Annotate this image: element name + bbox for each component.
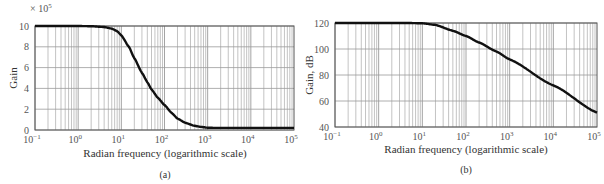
panel-b-y-ticks: 406080100120 [314, 18, 329, 133]
panel-a-caption: (a) [159, 169, 170, 181]
y-tick-label: 6 [24, 62, 29, 73]
panel-a-y-ticks: 0246810 [19, 21, 29, 136]
panel-a-multiplier: × 105 [30, 2, 52, 14]
panel-b-grid [335, 23, 597, 127]
x-tick-label: 10−1 [323, 130, 341, 142]
x-tick-label: 102 [456, 130, 470, 142]
x-tick-label: 105 [587, 130, 601, 142]
panel-a-y-axis-label: Gain [7, 67, 19, 89]
x-tick-label: 103 [500, 130, 514, 142]
panel-a-gain-plot: 0246810 10−1100101102103104105 × 105 Gai… [7, 2, 298, 181]
panel-b-y-axis-label: Gain, dB [303, 55, 315, 95]
y-tick-label: 80 [319, 70, 329, 81]
x-tick-label: 100 [68, 133, 82, 145]
x-tick-label: 103 [198, 133, 212, 145]
x-tick-label: 101 [112, 133, 126, 145]
panel-a-x-axis-label: Radian frequency (logarithmic scale) [83, 147, 247, 160]
panel-a-grid [35, 26, 294, 130]
y-tick-label: 10 [19, 21, 29, 32]
y-tick-label: 8 [24, 41, 29, 52]
x-tick-label: 104 [241, 133, 255, 145]
x-tick-label: 102 [155, 133, 169, 145]
y-tick-label: 2 [24, 104, 29, 115]
panel-b-x-ticks: 10−1100101102103104105 [323, 130, 601, 142]
y-tick-label: 120 [314, 18, 329, 29]
x-tick-label: 10−1 [23, 133, 41, 145]
x-tick-label: 105 [284, 133, 298, 145]
y-tick-label: 60 [319, 96, 329, 107]
panel-b-caption: (b) [460, 164, 472, 176]
bode-plots-figure: 0246810 10−1100101102103104105 × 105 Gai… [0, 0, 604, 184]
panel-b-x-axis-label: Radian frequency (logarithmic scale) [384, 143, 548, 156]
x-tick-label: 100 [369, 130, 383, 142]
panel-b-gain-db-plot: 406080100120 10−1100101102103104105 Gain… [303, 18, 601, 177]
x-tick-label: 104 [544, 130, 558, 142]
y-tick-label: 100 [314, 44, 329, 55]
x-tick-label: 101 [413, 130, 427, 142]
y-tick-label: 4 [24, 83, 29, 94]
panel-a-x-ticks: 10−1100101102103104105 [23, 133, 298, 145]
